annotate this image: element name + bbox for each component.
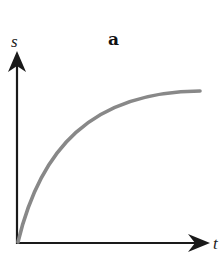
displacement-curve [18, 91, 200, 242]
panel-label: a [108, 29, 119, 49]
x-axis-label: t [213, 234, 219, 253]
displacement-time-graph: a s t [0, 0, 220, 261]
y-axis-label: s [11, 32, 18, 51]
